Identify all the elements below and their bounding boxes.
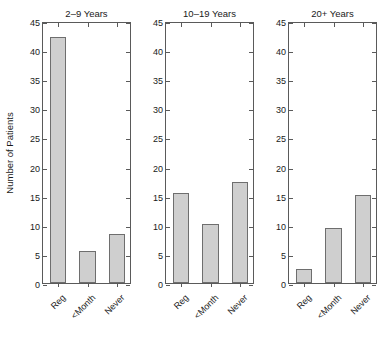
x-axis-tick-top	[334, 23, 335, 27]
bar	[173, 193, 189, 283]
y-axis-tick-right	[126, 52, 130, 53]
figure-canvas: Number of Patients 2–9 Years051015202530…	[0, 0, 383, 338]
y-axis-tick-right	[372, 81, 376, 82]
y-axis-tick	[43, 256, 47, 257]
y-axis-tick	[166, 227, 170, 228]
y-axis-tick-label: 45	[30, 19, 40, 28]
bar	[355, 195, 371, 283]
panel-title: 2–9 Years	[42, 8, 131, 19]
y-axis-tick-label: 5	[158, 251, 163, 260]
bar	[50, 37, 66, 283]
y-axis-tick	[166, 81, 170, 82]
y-axis-tick	[289, 285, 293, 286]
y-axis-tick	[43, 198, 47, 199]
y-axis-tick-label: 5	[35, 251, 40, 260]
y-axis-tick-right	[249, 139, 253, 140]
y-axis-tick	[166, 285, 170, 286]
y-axis-tick	[43, 81, 47, 82]
y-axis-tick-label: 15	[153, 193, 163, 202]
y-axis-tick-right	[249, 256, 253, 257]
y-axis-tick	[43, 52, 47, 53]
y-axis-tick-label: 10	[276, 222, 286, 231]
x-axis-tick-top	[240, 23, 241, 27]
x-axis-tick-top	[181, 23, 182, 27]
bar	[325, 228, 341, 283]
y-axis-tick	[289, 81, 293, 82]
y-axis-tick-right	[372, 23, 376, 24]
y-axis-tick-label: 35	[30, 77, 40, 86]
y-axis-tick-right	[126, 110, 130, 111]
bar	[109, 234, 125, 283]
y-axis-tick-right	[126, 169, 130, 170]
bar	[202, 224, 218, 283]
y-axis-tick-label: 20	[276, 164, 286, 173]
y-axis-tick-right	[249, 169, 253, 170]
x-axis-tick	[58, 283, 59, 287]
y-axis-tick	[289, 23, 293, 24]
y-axis-tick-label: 20	[153, 164, 163, 173]
bar	[79, 251, 95, 283]
x-axis-tick	[304, 283, 305, 287]
bar	[296, 269, 312, 283]
y-axis-tick-right	[372, 227, 376, 228]
x-axis-tick	[240, 283, 241, 287]
y-axis-tick-right	[372, 285, 376, 286]
y-axis-tick-label: 0	[281, 281, 286, 290]
y-axis-tick	[289, 52, 293, 53]
y-axis-tick	[43, 23, 47, 24]
y-axis-tick	[289, 198, 293, 199]
y-axis-tick	[43, 110, 47, 111]
y-axis-title: Number of Patients	[3, 22, 17, 284]
y-axis-tick	[166, 110, 170, 111]
y-axis-tick-right	[249, 227, 253, 228]
y-axis-tick	[289, 139, 293, 140]
y-axis-tick-label: 30	[30, 106, 40, 115]
panel-title: 20+ Years	[288, 8, 377, 19]
y-axis-tick-right	[249, 23, 253, 24]
y-axis-tick-right	[126, 139, 130, 140]
y-axis-tick-label: 10	[30, 222, 40, 231]
y-axis-tick	[166, 256, 170, 257]
x-axis-tick-top	[211, 23, 212, 27]
y-axis-tick-label: 15	[276, 193, 286, 202]
x-axis-tick-top	[88, 23, 89, 27]
y-axis-tick-label: 45	[153, 19, 163, 28]
y-axis-tick	[166, 23, 170, 24]
x-axis-tick	[363, 283, 364, 287]
y-axis-tick-right	[249, 52, 253, 53]
y-axis-tick-label: 35	[276, 77, 286, 86]
y-axis-tick	[289, 256, 293, 257]
plot-area: 051015202530354045	[42, 22, 131, 284]
y-axis-tick-label: 35	[153, 77, 163, 86]
y-axis-tick	[43, 139, 47, 140]
y-axis-tick	[166, 52, 170, 53]
x-axis-tick-top	[117, 23, 118, 27]
chart-panel: 20+ Years051015202530354045	[288, 0, 377, 338]
y-axis-tick-label: 40	[30, 48, 40, 57]
panel-title: 10–19 Years	[165, 8, 254, 19]
x-axis-tick-top	[304, 23, 305, 27]
y-axis-tick-right	[372, 139, 376, 140]
y-axis-tick-right	[126, 227, 130, 228]
y-axis-tick-right	[249, 198, 253, 199]
y-axis-tick	[43, 285, 47, 286]
y-axis-tick-right	[126, 81, 130, 82]
y-axis-tick-right	[249, 285, 253, 286]
y-axis-tick-right	[372, 110, 376, 111]
y-axis-tick	[289, 110, 293, 111]
x-axis-tick-top	[58, 23, 59, 27]
y-axis-tick	[166, 139, 170, 140]
plot-area: 051015202530354045	[288, 22, 377, 284]
y-axis-tick-right	[126, 256, 130, 257]
y-axis-tick-right	[372, 169, 376, 170]
y-axis-tick-label: 25	[276, 135, 286, 144]
bar	[232, 182, 248, 283]
y-axis-tick-label: 40	[276, 48, 286, 57]
y-axis-tick-right	[372, 198, 376, 199]
y-axis-tick	[43, 227, 47, 228]
x-axis-tick	[334, 283, 335, 287]
y-axis-tick-right	[372, 256, 376, 257]
chart-panel: 10–19 Years051015202530354045	[165, 0, 254, 338]
y-axis-tick	[289, 169, 293, 170]
y-axis-tick-right	[372, 52, 376, 53]
